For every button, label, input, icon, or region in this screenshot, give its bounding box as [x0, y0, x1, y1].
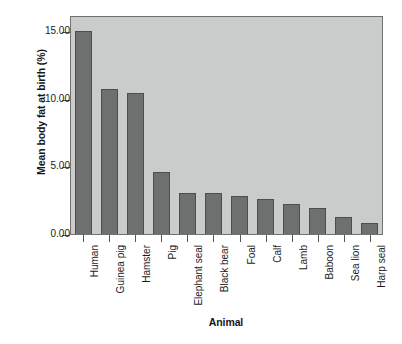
x-axis-tick: [161, 235, 162, 242]
x-axis-tick-label: Sea lion: [349, 245, 363, 315]
bar-series: [71, 17, 382, 234]
x-axis-tick: [213, 235, 214, 242]
y-axis-tick-label: 5.00: [12, 160, 70, 171]
bar-slot: [175, 17, 201, 234]
x-axis-tick-label: Pig: [166, 245, 180, 315]
bar: [231, 196, 248, 234]
x-axis-tick-label: Foal: [245, 245, 259, 315]
x-axis-tick-label: Black bear: [218, 245, 232, 315]
bar-slot: [330, 17, 356, 234]
y-axis-tick-label-wrap: 15.00: [0, 32, 70, 33]
x-axis-tick: [109, 235, 110, 242]
bar: [283, 204, 300, 234]
bar-slot: [304, 17, 330, 234]
x-axis-tick-label: Elephant seal: [192, 245, 206, 315]
bar-slot: [278, 17, 304, 234]
bar: [309, 208, 326, 234]
bar-chart-figure: Mean body fat at birth (%) Animal 0.005.…: [0, 0, 402, 344]
x-axis-tick-label: Harp seal: [375, 245, 389, 315]
x-axis-tick-label: Baboon: [323, 245, 337, 315]
x-axis-tick: [344, 235, 345, 242]
x-axis-tick: [292, 235, 293, 242]
bar: [205, 193, 222, 234]
x-axis-tick: [83, 235, 84, 242]
bar-slot: [149, 17, 175, 234]
bar-slot: [227, 17, 253, 234]
y-axis-tick-label: 10.00: [12, 93, 70, 104]
x-axis-tick-label: Calf: [271, 245, 285, 315]
bar: [101, 89, 118, 234]
y-axis-tick-label: 15.00: [12, 25, 70, 36]
x-axis-tick: [187, 235, 188, 242]
x-axis-tick: [318, 235, 319, 242]
x-axis-tick: [135, 235, 136, 242]
bar: [361, 223, 378, 234]
x-axis-tick-label: Guinea pig: [114, 245, 128, 315]
bar-slot: [252, 17, 278, 234]
x-axis-tick-label: Lamb: [297, 245, 311, 315]
bar-slot: [97, 17, 123, 234]
y-axis-tick-label-wrap: 5.00: [0, 167, 70, 168]
x-axis-tick-label: Human: [88, 245, 102, 315]
bar-slot: [71, 17, 97, 234]
x-axis-tick-label: Hamster: [140, 245, 154, 315]
x-axis-tick: [266, 235, 267, 242]
bar: [127, 93, 144, 234]
y-axis-tick-label-wrap: 0.00: [0, 235, 70, 236]
bar: [179, 193, 196, 234]
y-axis-tick-label: 0.00: [12, 228, 70, 239]
plot-area: [70, 16, 383, 235]
y-axis-tick-label-wrap: 10.00: [0, 100, 70, 101]
x-axis-title: Animal: [70, 316, 382, 328]
bar: [75, 31, 92, 234]
bar-slot: [356, 17, 382, 234]
x-axis-tick: [370, 235, 371, 242]
bar: [257, 199, 274, 234]
x-axis-tick: [240, 235, 241, 242]
bar: [153, 172, 170, 234]
bar: [335, 217, 352, 234]
bar-slot: [201, 17, 227, 234]
bar-slot: [123, 17, 149, 234]
